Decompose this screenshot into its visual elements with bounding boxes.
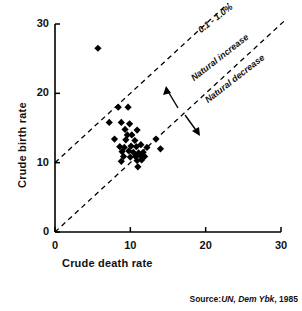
y-axis-title: Crude birth rate	[16, 102, 28, 188]
y-tick-label: 10	[25, 156, 49, 168]
data-point-marker	[126, 120, 133, 127]
data-point-group	[94, 45, 164, 171]
y-tick-label: 30	[25, 17, 49, 29]
direction-arrows	[163, 86, 200, 136]
x-tick-label: 30	[272, 239, 290, 251]
source-publication: UN, Dem Ybk	[221, 294, 274, 304]
equal-rates-line	[55, 21, 285, 232]
x-tick-label: 0	[46, 239, 64, 251]
x-axis-title: Crude death rate	[62, 257, 153, 269]
decrease-arrow-head	[192, 127, 200, 136]
data-point-marker	[111, 135, 118, 142]
x-tick-label: 20	[197, 239, 215, 251]
y-tick-label: 0	[25, 225, 49, 237]
x-tick-label: 10	[121, 239, 139, 251]
source-prefix: Source:	[189, 294, 221, 304]
source-caption: Source:UN, Dem Ybk, 1985	[189, 294, 298, 304]
reference-lines	[55, 3, 285, 232]
data-point-marker	[134, 163, 141, 170]
data-point-marker	[94, 45, 101, 52]
data-point-marker	[106, 119, 113, 126]
source-year: , 1985	[274, 294, 298, 304]
data-point-marker	[124, 104, 131, 111]
data-point-marker	[115, 104, 122, 111]
data-point-marker	[152, 135, 159, 142]
y-tick-label: 20	[25, 86, 49, 98]
data-point-marker	[134, 126, 141, 133]
data-point-marker	[157, 145, 164, 152]
data-point-marker	[118, 119, 125, 126]
scatter-chart-figure: 0102030 0102030 0.1 - 1.0% Natural incre…	[0, 0, 302, 311]
